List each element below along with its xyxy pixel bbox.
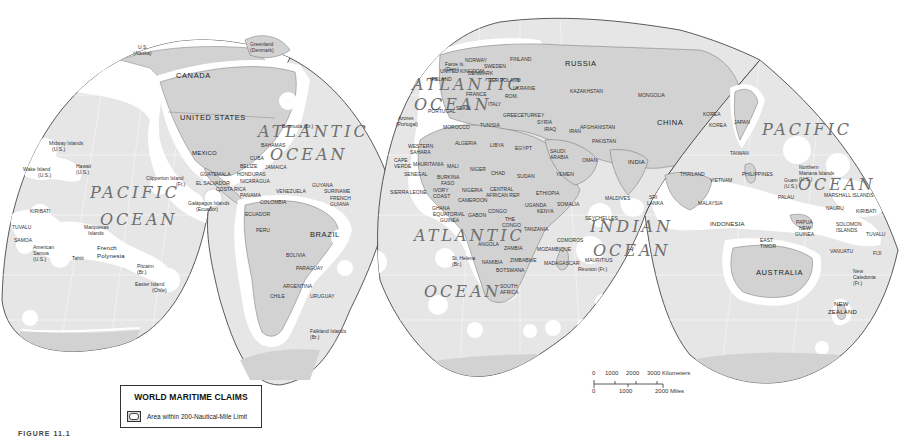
label-korea-north: KOREA	[703, 111, 721, 117]
label-french-guiana-2: GUIANA	[330, 201, 350, 207]
label-paraguay: PARAGUAY	[296, 265, 324, 271]
scale-km-3000: 3000 Kilometers	[647, 370, 690, 376]
label-egypt: EGYPT	[515, 145, 532, 151]
label-libya: LIBYA	[490, 142, 504, 148]
label-colombia: COLOMBIA	[260, 199, 287, 205]
label-chad: CHAD	[491, 170, 506, 176]
label-marshall-islands: MARSHALL ISLANDS	[824, 192, 874, 198]
label-united-states: UNITED STATES	[180, 113, 246, 122]
label-taiwan: TAIWAN	[730, 150, 749, 156]
label-guatemala: GUATEMALA	[200, 171, 231, 177]
label-peru: PERU	[256, 227, 270, 233]
scale-mi-2000: 2000 Miles	[655, 388, 684, 394]
scale-bar: 0 1000 2000 3000 Kilometers 0 1000 2000 …	[590, 370, 740, 400]
label-ivory-coast-2: COAST	[433, 193, 450, 199]
label-bahamas: BAHAMAS	[261, 142, 286, 148]
label-hawaii-2: (U.S.)	[76, 169, 89, 175]
label-new-caledonia-3: (Fr.)	[853, 280, 862, 286]
label-france: FRANCE	[466, 91, 487, 97]
label-sweden: SWEDEN	[484, 63, 506, 69]
label-morocco: MOROCCO	[443, 124, 470, 130]
label-saudi-arabia-2: ARABIA	[550, 154, 569, 160]
label-tanzania: TANZANIA	[524, 226, 549, 232]
label-argentina: ARGENTINA	[283, 283, 313, 289]
label-sierra-leone: SIERRA LEONE	[390, 189, 427, 195]
label-chile: CHILE	[270, 293, 285, 299]
label-reunion: Réunion (Fr.)	[578, 266, 608, 272]
label-belize: BELIZE	[240, 163, 258, 169]
label-mauritius: MAURITIUS	[585, 257, 613, 263]
label-spain: SPAIN	[456, 105, 471, 111]
label-bolivia: BOLIVIA	[286, 252, 306, 258]
legend-item-eez: Area within 200-Nautical-Mile Limit	[127, 411, 247, 422]
label-yemen: YEMEN	[556, 171, 574, 177]
label-alaska-2: (Alaska)	[133, 50, 152, 56]
label-bermuda: Bermuda (Br.)	[282, 123, 313, 129]
label-syria: SYRIA	[537, 119, 553, 125]
label-fiji: FIJI	[873, 250, 881, 256]
label-zimbabwe: ZIMBABWE	[510, 257, 537, 263]
label-venezuela: VENEZUELA	[276, 188, 306, 194]
label-tuvalu-west: TUVALU	[12, 224, 32, 230]
label-galapagos-2: (Ecuador)	[196, 206, 218, 212]
label-vietnam: VIETNAM	[710, 177, 732, 183]
label-equatorial-guinea-2: GUINEA	[440, 217, 460, 223]
label-gabon: GABON	[468, 212, 486, 218]
label-suriname: SURINAME	[324, 188, 351, 194]
label-french-polynesia-2: Polynesia	[97, 253, 125, 259]
label-panama: PANAMA	[240, 192, 261, 198]
label-wake-2: (U.S.)	[38, 172, 51, 178]
label-turkey: TURKEY	[524, 112, 545, 118]
label-azores-2: (Portugal)	[396, 121, 418, 127]
label-nigeria: NIGERIA	[462, 187, 483, 193]
label-seychelles: SEYCHELLES	[585, 215, 618, 221]
label-east-timor-2: TIMOR	[760, 243, 776, 249]
label-greenland-2: (Denmark)	[250, 47, 274, 53]
label-uruguay: URUGUAY	[310, 293, 335, 299]
label-maldives: MALDIVES	[605, 195, 631, 201]
label-iraq: IRAQ	[544, 126, 556, 132]
label-comoros: COMOROS	[557, 237, 584, 243]
label-ecuador: ECUADOR	[245, 211, 270, 217]
label-sudan: SUDAN	[517, 173, 535, 179]
label-mali: MALI	[447, 163, 459, 169]
label-solomon-2: ISLANDS	[836, 227, 858, 233]
label-guam-2: (U.S.)	[784, 183, 797, 189]
label-pakistan: PAKISTAN	[592, 138, 616, 144]
label-italy: ITALY	[488, 101, 502, 107]
scale-mi-0: 0	[592, 388, 595, 394]
label-ireland: IRELAND	[430, 76, 452, 82]
label-namibia: NAMIBIA	[482, 259, 503, 265]
label-thailand: THAILAND	[680, 171, 705, 177]
label-midway-2: (U.S.)	[52, 146, 65, 152]
label-congo: CONGO	[488, 208, 507, 214]
label-french-polynesia: French	[97, 245, 117, 251]
label-india: INDIA	[628, 159, 645, 165]
legend-title: WORLD MARITIME CLAIMS	[121, 392, 261, 402]
label-cuba: CUBA	[250, 155, 265, 161]
label-car-2: AFRICAN REP.	[486, 192, 520, 198]
scale-bar-line	[593, 380, 668, 388]
label-burkina-2: FASO	[441, 180, 454, 186]
map-legend: WORLD MARITIME CLAIMS Area within 200-Na…	[120, 385, 262, 428]
label-vanuatu: VANUATU	[830, 248, 854, 254]
label-tunisia: TUNISIA	[480, 122, 500, 128]
label-easter-2: (Chile)	[152, 287, 167, 293]
label-finland: FINLAND	[510, 56, 532, 62]
label-n-mariana-3: (U.S.)	[799, 176, 812, 182]
ocean-label-atlantic-south: ATLANTIC	[412, 226, 525, 245]
label-mexico: MEXICO	[192, 150, 217, 156]
label-nicaragua: NICARAGUA	[240, 178, 270, 184]
label-germany: GER.	[488, 77, 500, 83]
label-angola: ANGOLA	[478, 241, 500, 247]
ocean-label-atlantic-south-2: OCEAN	[424, 282, 502, 301]
label-kiribati-east: KIRIBATI	[856, 208, 876, 214]
label-south-africa-2: AFRICA	[500, 289, 519, 295]
label-clipperton-2: (Fr.)	[176, 181, 185, 187]
label-indonesia: INDONESIA	[710, 221, 745, 227]
label-malaysia: MALAYSIA	[698, 200, 723, 206]
label-pitcairn-2: (Br.)	[137, 269, 147, 275]
label-kazakhstan: KAZAKHSTAN	[570, 88, 603, 94]
label-mauritania: MAURITANIA	[413, 161, 444, 167]
label-drc-2: CONGO	[502, 222, 521, 228]
